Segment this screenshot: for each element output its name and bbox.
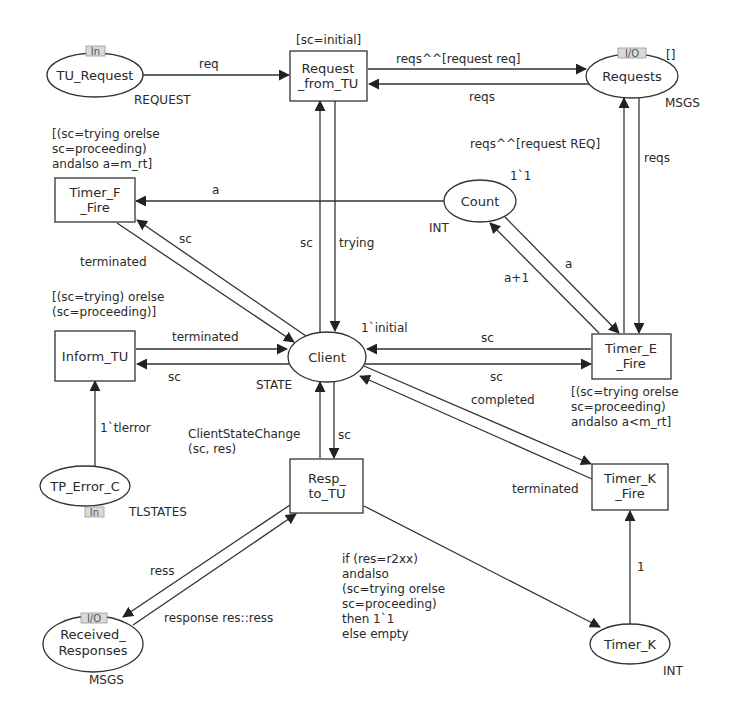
svg-text:andalso: andalso [342,567,389,581]
place-timer-k-name: Timer_K [603,637,657,652]
place-received-responses[interactable]: Received_ Responses [43,616,143,672]
arc-inscription: completed [471,393,535,407]
transition-label-line2: _Fire [614,486,645,501]
svg-text:(sc=trying orelse: (sc=trying orelse [342,582,445,596]
transition-label-line2: _from_TU [297,76,359,91]
transition-label-line2: to_TU [308,486,345,501]
svg-text:(sc, res): (sc, res) [188,442,236,456]
transition-timer-f-fire[interactable]: Timer_F _Fire [55,178,135,222]
arc-inscription: response res::ress [164,611,273,625]
place-received-responses-name-line1: Received_ [60,627,126,642]
guard-label: [sc=initial] [296,33,361,47]
svg-text:I/O: I/O [87,613,101,624]
place-tp-error-c-name: TP_Error_C [49,479,120,494]
transition-label-line2: _Fire [79,200,110,215]
arc-inscription: ClientStateChange (sc, res) [188,427,300,456]
colorset-label: INT [429,221,450,235]
svg-text:andalso a<m_rt]: andalso a<m_rt] [571,415,671,429]
guard-label: [(sc=trying orelse sc=proceeding) andals… [571,385,679,429]
arc-inscription: ress [150,564,175,578]
arc-inscription: req [199,57,219,71]
place-count[interactable]: Count [444,180,516,222]
port-tag-in: In [86,46,105,57]
svg-text:sc=proceeding): sc=proceeding) [52,142,147,156]
arc-inscription: sc [168,370,181,384]
svg-text:andalso a=m_rt]: andalso a=m_rt] [52,157,152,171]
svg-text:ClientStateChange: ClientStateChange [188,427,300,441]
arc-timer-k-fire-to-client [360,376,592,479]
place-tp-error-c[interactable]: TP_Error_C [40,466,130,506]
place-tu-request-name: TU_Request [56,68,134,83]
colorset-label: STATE [256,378,292,392]
place-client[interactable]: Client [288,332,366,382]
colorset-label: MSGS [89,673,124,687]
transition-timer-e-fire[interactable]: Timer_E _Fire [592,334,671,379]
svg-text:else empty: else empty [342,627,409,641]
petri-net-diagram: TU_Request In REQUEST Requests I/O [] MS… [0,0,735,720]
svg-text:[(sc=trying orelse: [(sc=trying orelse [52,127,160,141]
svg-text:I/O: I/O [625,48,639,59]
arc-inscription: a [565,257,572,271]
transition-label-line1: Timer_K [603,471,657,486]
svg-text:sc=proceeding): sc=proceeding) [342,597,437,611]
arc-client-to-timer-f-fire [137,220,306,336]
guard-label: [(sc=trying orelse sc=proceeding) andals… [52,127,160,171]
arc-inscription: reqs [644,151,670,165]
place-count-name: Count [461,194,500,209]
port-tag-io: I/O [81,613,107,624]
svg-text:if (res=r2xx): if (res=r2xx) [342,552,418,566]
place-client-name: Client [308,350,346,365]
arc-inscription: terminated [512,482,579,496]
arc-inscription: sc [338,428,351,442]
initial-marking-label: [] [666,48,675,62]
arc-inscription: 1 [637,560,645,574]
arc-inscription: reqs [469,90,495,104]
transition-resp-to-tu[interactable]: Resp_ to_TU [290,459,363,513]
arc-inscription: sc [179,232,192,246]
svg-text:[(sc=trying) orelse: [(sc=trying) orelse [52,290,164,304]
colorset-label: REQUEST [134,93,191,107]
place-requests-name: Requests [602,69,662,84]
port-tag-io: I/O [618,48,646,59]
svg-text:sc=proceeding): sc=proceeding) [571,400,666,414]
arc-inscription: a+1 [504,271,529,285]
transition-inform-tu[interactable]: Inform_TU [55,331,135,381]
svg-text:(sc=proceeding)]: (sc=proceeding)] [52,305,156,319]
arc-inscription: reqs^^[request req] [396,52,521,66]
transition-label-line2: _Fire [615,356,646,371]
svg-text:then 1`1: then 1`1 [342,612,394,626]
transition-label-line1: Timer_F [68,185,120,200]
initial-marking-label: 1`1 [510,169,531,183]
port-tag-in: In [85,507,104,518]
colorset-label: INT [663,664,684,678]
svg-text:In: In [91,46,100,57]
transition-timer-k-fire[interactable]: Timer_K _Fire [592,464,668,510]
arc-client-to-timer-k-fire [364,366,591,464]
arc-inscription: sc [481,331,494,345]
place-tu-request[interactable]: TU_Request [47,53,143,97]
arc-inscription: a [212,183,219,197]
transition-label-line1: Request [302,61,355,76]
arc-inscription: reqs^^[request REQ] [470,137,600,151]
guard-label: [(sc=trying) orelse (sc=proceeding)] [52,290,164,319]
place-timer-k[interactable]: Timer_K [590,624,670,664]
initial-marking-label: 1`initial [361,321,408,335]
colorset-label: TLSTATES [128,505,187,519]
arc-inscription: if (res=r2xx) andalso (sc=trying orelse … [342,552,445,641]
svg-text:[(sc=trying orelse: [(sc=trying orelse [571,385,679,399]
arc-inscription: 1`tlerror [100,421,151,435]
transition-label-line1: Inform_TU [62,349,128,364]
arc-inscription: sc [300,236,313,250]
arc-resp-to-tu-to-received-responses [123,505,290,617]
colorset-label: MSGS [665,96,700,110]
transition-label-line1: Timer_E [604,341,657,356]
arc-inscription: terminated [80,255,147,269]
transition-label-line1: Resp_ [308,471,346,486]
arc-inscription: terminated [172,330,239,344]
arc-timer-f-fire-to-client [117,223,294,342]
svg-text:In: In [90,507,99,518]
place-requests[interactable]: Requests [586,54,678,98]
arc-inscription: sc [490,370,503,384]
transition-request-from-tu[interactable]: Request _from_TU [290,51,367,101]
arc-inscription: trying [339,236,374,250]
